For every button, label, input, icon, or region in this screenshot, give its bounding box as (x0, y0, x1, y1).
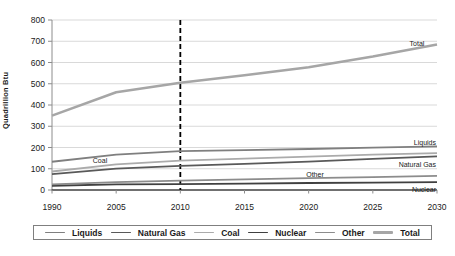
x-tick-label: 2025 (363, 202, 382, 212)
legend-item-natural-gas: Natural Gas (111, 228, 186, 238)
y-tick-label: 300 (31, 121, 45, 131)
legend-label-total: Total (400, 228, 420, 238)
inline-label-nuclear: Nuclear (412, 186, 437, 193)
inline-label-total: Total (410, 40, 425, 47)
legend-item-other: Other (315, 228, 365, 238)
legend-swatch-coal (194, 232, 214, 234)
plot-area: 0100200300400500600700800199020052010201… (0, 0, 455, 256)
y-tick-label: 600 (31, 58, 45, 68)
y-tick-label: 200 (31, 143, 45, 153)
inline-label-natural-gas: Natural Gas (399, 161, 437, 168)
legend-label-coal: Coal (221, 228, 239, 238)
legend-item-liquids: Liquids (45, 228, 102, 238)
y-axis-title: Quadrillion Btu (1, 64, 15, 136)
legend-label-other: Other (342, 228, 365, 238)
legend-swatch-natural-gas (111, 232, 131, 234)
y-tick-label: 800 (31, 15, 45, 25)
legend-item-coal: Coal (194, 228, 239, 238)
legend-item-total: Total (373, 228, 420, 238)
legend-swatch-liquids (45, 232, 65, 234)
legend-swatch-total (373, 231, 393, 234)
legend-label-liquids: Liquids (72, 228, 102, 238)
y-tick-label: 700 (31, 36, 45, 46)
inline-label-liquids: Liquids (414, 139, 437, 147)
y-tick-label: 500 (31, 79, 45, 89)
energy-consumption-chart: 0100200300400500600700800199020052010201… (0, 0, 455, 256)
x-tick-label: 2010 (171, 202, 190, 212)
x-tick-label: 2020 (299, 202, 318, 212)
legend: LiquidsNatural GasCoalNuclearOtherTotal (33, 225, 432, 240)
legend-item-nuclear: Nuclear (248, 228, 306, 238)
legend-swatch-nuclear (248, 232, 268, 234)
x-tick-label: 2005 (107, 202, 126, 212)
legend-label-nuclear: Nuclear (275, 228, 306, 238)
x-tick-label: 1990 (43, 202, 62, 212)
legend-swatch-other (315, 232, 335, 234)
x-tick-label: 2030 (428, 202, 447, 212)
y-tick-label: 0 (40, 185, 45, 195)
x-tick-label: 2015 (235, 202, 254, 212)
inline-label-other: Other (306, 171, 324, 178)
inline-label-coal: Coal (93, 157, 108, 164)
y-tick-label: 100 (31, 164, 45, 174)
y-tick-label: 400 (31, 100, 45, 110)
legend-label-natural-gas: Natural Gas (138, 228, 186, 238)
